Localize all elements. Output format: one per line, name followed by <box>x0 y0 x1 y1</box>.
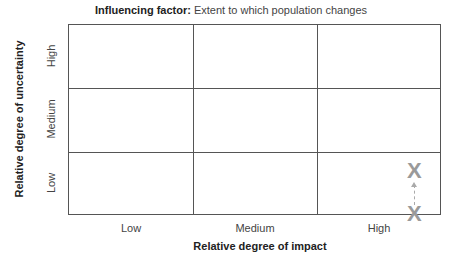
diagram-title: Influencing factor: Extent to which popu… <box>0 4 462 16</box>
y-axis-title: Relative degree of uncertainty <box>13 9 25 229</box>
grid-hline-2 <box>69 152 440 153</box>
impact-uncertainty-grid <box>68 24 441 215</box>
grid-hline-1 <box>69 88 440 89</box>
grid-vline-2 <box>317 25 318 214</box>
x-tick-low: Low <box>91 222 171 234</box>
grid-vline-1 <box>193 25 194 214</box>
y-tick-low: Low <box>45 143 57 223</box>
title-label: Influencing factor: <box>95 4 191 16</box>
x-marker-upper: X <box>407 160 422 182</box>
x-axis-title: Relative degree of impact <box>0 240 462 252</box>
title-text: Extent to which population changes <box>194 4 367 16</box>
x-tick-high: High <box>339 222 419 234</box>
x-tick-medium: Medium <box>215 222 295 234</box>
